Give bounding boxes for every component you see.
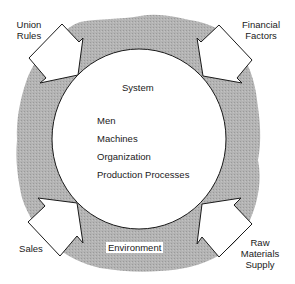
system-environment-diagram: Union Rules Financial Factors Sales Raw … (0, 0, 295, 284)
financial-factors-label: Financial Factors (236, 19, 286, 41)
system-item-organization: Organization (97, 151, 151, 162)
raw-materials-label-line2: Materials (229, 248, 291, 259)
system-item-production-processes: Production Processes (97, 169, 189, 180)
union-rules-label-line1: Union (14, 19, 44, 30)
union-rules-label-line2: Rules (14, 30, 44, 41)
sales-label: Sales (14, 243, 48, 254)
system-item-machines: Machines (97, 133, 138, 144)
environment-label: Environment (106, 242, 163, 253)
system-item-men: Men (97, 115, 115, 126)
financial-factors-label-line1: Financial (236, 19, 286, 30)
raw-materials-label-line3: Supply (229, 259, 291, 270)
system-circle (52, 49, 226, 229)
raw-materials-supply-label: Raw Materials Supply (229, 237, 291, 270)
system-title: System (122, 82, 154, 93)
raw-materials-label-line1: Raw (229, 237, 291, 248)
financial-factors-label-line2: Factors (236, 30, 286, 41)
union-rules-label: Union Rules (14, 19, 44, 41)
sales-label-line1: Sales (14, 243, 48, 254)
